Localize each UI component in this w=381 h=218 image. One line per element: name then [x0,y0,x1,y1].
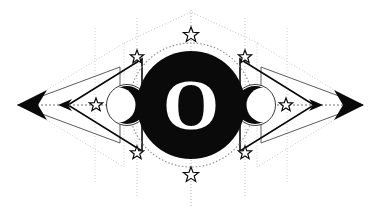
center-letter-glyph: O [163,65,219,145]
emblem-canvas: O [0,0,381,218]
emblem-artwork: O [0,0,381,218]
